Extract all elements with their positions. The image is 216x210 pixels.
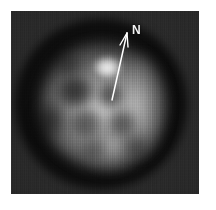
north-direction-label: N — [132, 24, 141, 36]
figure-root: N — [0, 0, 216, 210]
sky-background — [11, 11, 199, 194]
astronomical-image-plate: N — [11, 11, 199, 194]
